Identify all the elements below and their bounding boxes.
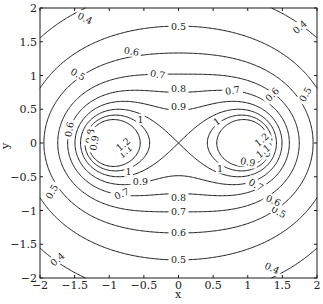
contour-label: 0.6 [62,119,76,140]
x-axis-label: x [175,288,182,301]
contour-label: 0.5 [169,21,189,32]
y-tick-label: −0.5 [10,171,37,184]
contour-label: 0.6 [121,44,142,58]
contour-label: 0.7 [222,83,243,97]
svg-text:0.5: 0.5 [171,21,186,32]
y-tick-label: 2 [30,2,37,15]
y-tick-label: 0 [30,137,37,150]
svg-text:0.6: 0.6 [171,227,186,238]
y-axis-label: y [0,142,12,150]
y-tick-label: 1 [30,70,37,83]
contour-label: 0.7 [147,67,168,81]
x-tick-label: 1 [244,279,251,292]
contour-label: 0.4 [261,259,284,277]
contour-label: 0.7 [169,206,189,217]
svg-text:0.7: 0.7 [224,84,241,97]
x-tick-label: 0.5 [204,279,222,292]
contour-label: 1 [124,166,133,177]
svg-text:1: 1 [137,114,143,125]
svg-text:0.7: 0.7 [149,68,165,81]
svg-text:0.6: 0.6 [62,121,75,138]
contour-label: 1 [216,163,225,174]
y-tick-label: −2 [21,272,37,285]
contour-label: 0.9 [87,132,101,153]
contour-plot: 0.40.40.40.40.50.50.50.50.50.50.60.60.60… [0,0,323,304]
svg-text:0.8: 0.8 [171,192,186,203]
svg-text:0.8: 0.8 [171,83,186,94]
contour-label: 0.8 [169,83,189,94]
x-tick-label: 1.5 [274,279,292,292]
svg-text:1: 1 [126,166,132,177]
y-tick-label: 1.5 [20,36,38,49]
contour-label: 1 [136,114,145,125]
x-tick-label: −1 [101,279,117,292]
contour-label: 0.4 [74,9,97,27]
y-tick-label: −1.5 [10,238,37,251]
contour-label: 0.7 [245,175,268,194]
x-tick-label: −1.5 [61,279,88,292]
contour-label: 0.5 [42,180,61,203]
svg-text:0.9: 0.9 [133,176,148,187]
svg-text:1: 1 [217,163,223,174]
svg-text:0.9: 0.9 [171,101,186,112]
contour-label: 0.8 [169,192,189,203]
svg-text:0.5: 0.5 [171,254,186,265]
svg-text:0.7: 0.7 [171,206,186,217]
contour-label: 0.5 [67,64,90,83]
contour-label: 0.5 [295,83,314,106]
contour-label: 0.6 [169,227,189,238]
x-tick-label: −0.5 [131,279,158,292]
y-tick-label: −1 [21,205,37,218]
contour-label: 0.9 [131,176,151,187]
contour-label: 0.5 [169,254,189,265]
x-tick-label: 2 [314,279,321,292]
svg-text:0.9: 0.9 [87,135,100,152]
contour-label: 0.7 [110,184,133,202]
y-tick-label: 0.5 [20,103,38,116]
contour-label: 0.9 [169,101,189,112]
contour-label: 0.6 [261,84,283,106]
svg-text:0.6: 0.6 [123,45,139,58]
